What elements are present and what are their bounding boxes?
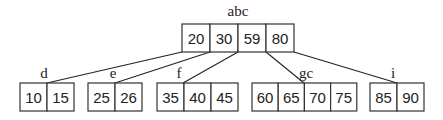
key-value: 25 (93, 89, 110, 106)
key-cell: 15 (47, 83, 74, 111)
key-cell: 60 (252, 83, 278, 111)
b-tree-diagram: abc20305980 d1015e2526f354045gc60657075i… (0, 0, 443, 120)
key-cell: 26 (115, 83, 142, 111)
key-cell: 59 (238, 24, 266, 52)
key-cell: 10 (20, 83, 47, 111)
key-cell: 25 (88, 83, 115, 111)
key-value: 26 (120, 89, 137, 106)
key-value: 15 (52, 89, 69, 106)
node-i: i8590 (370, 65, 424, 111)
key-cell: 65 (278, 83, 304, 111)
key-cell: 85 (370, 83, 397, 111)
child-nodes: d1015e2526f354045gc60657075i8590 (20, 65, 424, 111)
key-cell: 75 (331, 83, 357, 111)
node-gc: gc60657075 (252, 65, 357, 111)
key-value: 70 (309, 89, 326, 106)
tree-edges (47, 52, 397, 83)
key-value: 90 (402, 89, 419, 106)
node-label: i (391, 65, 395, 81)
key-value: 40 (189, 89, 206, 106)
edge-abc-to-f (183, 52, 238, 83)
key-value: 10 (25, 89, 42, 106)
key-cell: 45 (211, 83, 238, 111)
root-node-abc: abc20305980 (182, 3, 294, 52)
key-value: 65 (283, 89, 300, 106)
node-label: d (40, 65, 48, 81)
key-cell: 90 (397, 83, 424, 111)
key-value: 30 (216, 30, 233, 47)
key-value: 35 (162, 89, 179, 106)
key-cell: 70 (304, 83, 330, 111)
key-value: 75 (335, 89, 352, 106)
key-value: 80 (272, 30, 289, 47)
key-value: 20 (188, 30, 205, 47)
node-label: f (177, 65, 182, 81)
key-value: 45 (216, 89, 233, 106)
node-label: e (110, 65, 117, 81)
key-cell: 30 (210, 24, 238, 52)
node-d: d1015 (20, 65, 74, 111)
key-cell: 40 (184, 83, 211, 111)
key-value: 85 (375, 89, 392, 106)
key-value: 60 (257, 89, 274, 106)
key-value: 59 (244, 30, 261, 47)
node-label: gc (299, 65, 314, 81)
node-abc: abc20305980 (182, 3, 294, 52)
node-f: f354045 (157, 65, 238, 111)
key-cell: 20 (182, 24, 210, 52)
key-cell: 35 (157, 83, 184, 111)
node-label: abc (228, 3, 249, 19)
key-cell: 80 (266, 24, 294, 52)
